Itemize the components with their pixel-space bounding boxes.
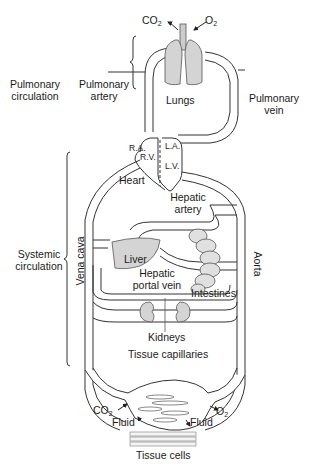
co2-bottom-label: CO2 <box>93 404 113 420</box>
co2-top-label: CO2 <box>142 14 162 30</box>
hepatic-artery-label: Hepaticartery <box>166 191 210 215</box>
pulmonary-circulation-label: Pulmonarycirculation <box>4 78 66 102</box>
pulmonary-vein-label: Pulmonaryvein <box>244 92 304 116</box>
aorta-label: Aorta <box>252 244 264 284</box>
intestines-label: Intestines <box>191 287 236 299</box>
lungs-label: Lungs <box>166 94 195 106</box>
systemic-circulation-label: Systemiccirculation <box>14 248 64 272</box>
co2-bottom-arrow <box>118 404 127 410</box>
fluid-left-label: Fluid <box>112 416 135 428</box>
heart-label: Heart <box>119 174 145 186</box>
kidneys-label: Kidneys <box>148 331 185 343</box>
left-ventricle-label: L.V. <box>165 160 179 172</box>
tissue-cells-illustration <box>130 432 196 446</box>
tissue-capillaries-label: Tissue capillaries <box>128 348 208 360</box>
tissue-cells-label: Tissue cells <box>136 449 190 461</box>
circulation-diagram <box>0 0 315 465</box>
co2-out-arrow <box>168 22 178 30</box>
left-atrium-label: L.A. <box>165 140 180 152</box>
liver-label: Liver <box>124 253 147 265</box>
capillary-bed <box>85 370 245 430</box>
right-ventricle-label: R.V. <box>140 151 156 163</box>
o2-top-label: O2 <box>205 14 217 30</box>
hepatic-portal-vein-label: Hepaticportal vein <box>130 267 184 291</box>
systemic-bracket <box>64 152 70 366</box>
pulmonary-artery-label: Pulmonaryartery <box>74 78 134 102</box>
vena-cava-label: Vena cava <box>74 231 86 291</box>
o2-bottom-label: O2 <box>216 405 228 421</box>
kidneys-illustration <box>140 298 190 332</box>
fluid-right-label: Fluid <box>190 416 213 428</box>
lungs-illustration <box>165 24 202 85</box>
